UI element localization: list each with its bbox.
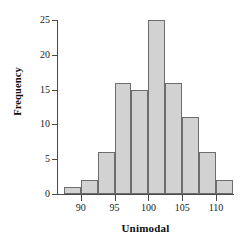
x-tick-mark bbox=[182, 195, 183, 201]
y-tick-label: 15 bbox=[26, 85, 50, 95]
x-tick-mark bbox=[148, 195, 149, 201]
histogram-bar bbox=[182, 117, 199, 194]
y-tick-label: 5 bbox=[26, 154, 50, 164]
histogram-bar bbox=[98, 152, 115, 194]
y-tick-label: 10 bbox=[26, 119, 50, 129]
histogram-bar bbox=[131, 90, 148, 194]
x-tick-label: 110 bbox=[201, 203, 231, 213]
histogram-bar bbox=[165, 83, 182, 194]
y-tick-mark bbox=[52, 90, 57, 91]
histogram-figure: 0510152025 9095100105110 Frequency Unimo… bbox=[0, 0, 245, 242]
y-tick-label: 25 bbox=[26, 15, 50, 25]
x-tick-label: 105 bbox=[167, 203, 197, 213]
histogram-bar bbox=[148, 20, 165, 194]
x-tick-mark bbox=[115, 195, 116, 201]
histogram-bar bbox=[64, 187, 81, 194]
histogram-bar bbox=[115, 83, 132, 194]
y-tick-mark bbox=[52, 124, 57, 125]
histogram-bar bbox=[81, 180, 98, 194]
x-tick-label: 95 bbox=[100, 203, 130, 213]
y-tick-label: 0 bbox=[26, 189, 50, 199]
x-tick-label: 90 bbox=[66, 203, 96, 213]
y-tick-mark bbox=[52, 55, 57, 56]
plot-area bbox=[57, 20, 233, 194]
x-tick-label: 100 bbox=[133, 203, 163, 213]
x-tick-mark bbox=[216, 195, 217, 201]
y-tick-mark bbox=[52, 194, 57, 195]
y-axis-line bbox=[57, 20, 58, 195]
y-tick-label: 20 bbox=[26, 50, 50, 60]
y-axis-title: Frequency bbox=[12, 52, 23, 132]
y-tick-mark bbox=[52, 20, 57, 21]
y-tick-mark bbox=[52, 159, 57, 160]
histogram-bar bbox=[199, 152, 216, 194]
x-axis-title: Unimodal bbox=[57, 222, 234, 234]
x-tick-mark bbox=[81, 195, 82, 201]
histogram-bar bbox=[216, 180, 233, 194]
x-axis-line bbox=[57, 194, 234, 195]
